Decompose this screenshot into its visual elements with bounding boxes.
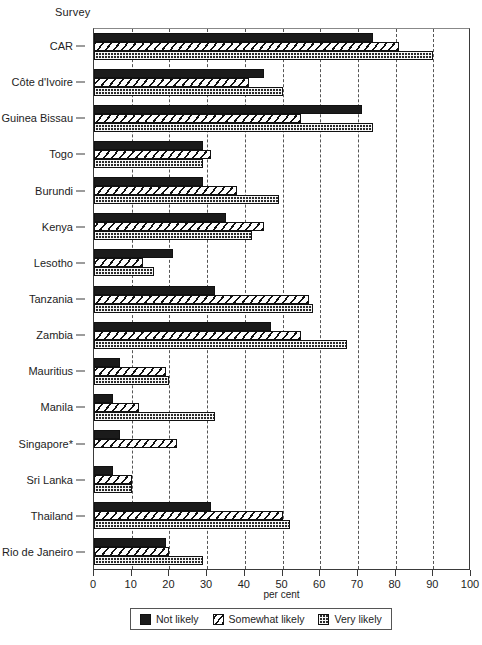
bar-group [94, 141, 469, 168]
category-tick [76, 407, 85, 408]
category-label: Kenya [42, 221, 73, 233]
bar [94, 186, 237, 195]
x-axis-title: per cent [93, 589, 470, 600]
bar [94, 295, 309, 304]
x-tick [206, 570, 207, 576]
category-label: Burundi [35, 185, 73, 197]
category-label: Manila [41, 401, 73, 413]
bar [94, 87, 283, 96]
bar [94, 322, 271, 331]
bar [94, 376, 169, 385]
bar [94, 69, 264, 78]
bar [94, 394, 113, 403]
survey-axis-title: Survey [55, 6, 90, 18]
bar [94, 403, 139, 412]
bar [94, 286, 215, 295]
bar-group [94, 430, 469, 457]
bar [94, 105, 362, 114]
category-tick [76, 190, 85, 191]
bar-group [94, 177, 469, 204]
legend-item: Somewhat likely [213, 613, 305, 625]
bar [94, 511, 283, 520]
bar [94, 141, 203, 150]
bar [94, 78, 249, 87]
category-tick [76, 479, 85, 480]
x-tick [470, 570, 471, 576]
x-tick [131, 570, 132, 576]
legend-swatch-notlikely-icon [140, 614, 151, 625]
bar-group [94, 33, 469, 60]
bar [94, 439, 177, 448]
bar [94, 159, 203, 168]
legend-swatch-somewhat-icon [213, 614, 224, 625]
bar [94, 33, 373, 42]
bar-group [94, 538, 469, 565]
bar-group [94, 213, 469, 240]
plot-area [93, 28, 470, 570]
bar [94, 331, 301, 340]
x-tick [168, 570, 169, 576]
bar [94, 267, 154, 276]
bar-group [94, 249, 469, 276]
legend-label: Somewhat likely [229, 613, 305, 625]
bar [94, 556, 203, 565]
bar [94, 358, 120, 367]
x-tick [357, 570, 358, 576]
x-tick [244, 570, 245, 576]
category-label: Thailand [31, 510, 73, 522]
category-tick [76, 118, 85, 119]
bar [94, 177, 203, 186]
legend-label: Not likely [156, 613, 199, 625]
category-label: Mauritius [28, 365, 73, 377]
category-label: Côte d'Ivoire [12, 76, 73, 88]
bar-group [94, 286, 469, 313]
legend-label: Very likely [334, 613, 381, 625]
bar [94, 502, 211, 511]
category-label: Lesotho [34, 257, 73, 269]
legend-item: Not likely [140, 613, 199, 625]
bar [94, 42, 399, 51]
bar [94, 520, 290, 529]
bar [94, 466, 113, 475]
category-tick [76, 226, 85, 227]
category-label: Guinea Bissau [1, 112, 73, 124]
bar [94, 430, 120, 439]
category-label: Togo [49, 148, 73, 160]
category-tick [76, 551, 85, 552]
bar [94, 123, 373, 132]
bar-group [94, 322, 469, 349]
chart-legend: Not likelySomewhat likelyVery likely [130, 608, 392, 630]
category-tick [76, 299, 85, 300]
x-tick [319, 570, 320, 576]
bar [94, 340, 347, 349]
category-tick [76, 262, 85, 263]
x-tick [395, 570, 396, 576]
bar [94, 304, 313, 313]
category-tick [76, 46, 85, 47]
bar-group [94, 466, 469, 493]
category-tick [76, 443, 85, 444]
bar [94, 51, 433, 60]
bar-group [94, 502, 469, 529]
category-axis: CARCôte d'IvoireGuinea BissauTogoBurundi… [0, 28, 85, 570]
legend-item: Very likely [318, 613, 381, 625]
bar [94, 249, 173, 258]
bar [94, 150, 211, 159]
bar [94, 195, 279, 204]
bar [94, 222, 264, 231]
bar [94, 231, 252, 240]
category-label: CAR [50, 40, 73, 52]
bar [94, 484, 132, 493]
category-tick [76, 515, 85, 516]
bar-group [94, 358, 469, 385]
bar [94, 213, 226, 222]
legend-swatch-very-icon [318, 614, 329, 625]
bar-group [94, 105, 469, 132]
x-tick [282, 570, 283, 576]
x-tick [93, 570, 94, 576]
category-tick [76, 335, 85, 336]
bar [94, 367, 166, 376]
category-tick [76, 154, 85, 155]
category-tick [76, 371, 85, 372]
bar-group [94, 394, 469, 421]
